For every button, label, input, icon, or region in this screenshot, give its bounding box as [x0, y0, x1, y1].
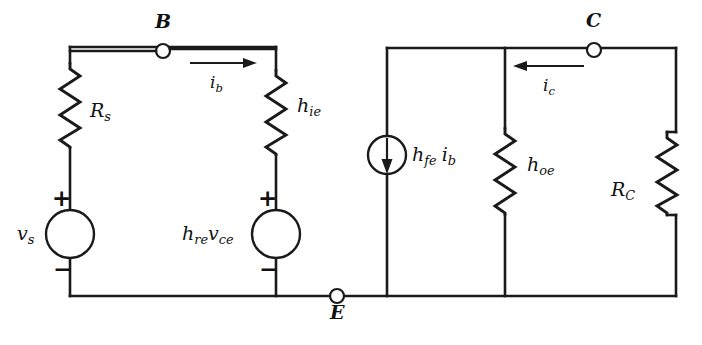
voltage-source-vs-circle: [46, 210, 94, 258]
circuit-diagram-canvas: B E C Rs hie hoe RC vs hrevce hfeib ib i…: [0, 0, 702, 345]
resistor-label-rc-sub: C: [625, 188, 635, 203]
node-label-e: E: [330, 303, 344, 322]
voltage-source-label-vce-sub: ce: [219, 232, 234, 247]
resistor-label-rc: RC: [611, 180, 635, 199]
current-arrow-label-ic-sub: c: [548, 84, 554, 98]
resistor-label-hie-sub: ie: [309, 104, 321, 119]
voltage-source-hre-vce-circle: [252, 210, 300, 258]
resistor-label-rs-base: R: [90, 99, 104, 121]
resistor-label-hoe-sub: oe: [539, 163, 554, 178]
resistor-label-hie: hie: [297, 96, 321, 115]
voltage-source-label-vce-base: v: [208, 222, 219, 244]
node-label-b: B: [155, 12, 171, 31]
terminal-node-b-circle: [156, 44, 170, 58]
resistor-label-hoe-base: h: [527, 153, 539, 175]
current-source-label-hfe-sub: fe: [424, 153, 436, 168]
polarity-minus-hre-vce: −: [259, 258, 278, 281]
current-arrow-label-ib-sub: b: [215, 81, 222, 95]
resistor-label-rs-sub: s: [104, 109, 111, 124]
voltage-source-label-vs-sub: s: [28, 232, 35, 247]
current-arrow-ic-head-icon: [513, 61, 527, 71]
voltage-source-label-vs: vs: [17, 224, 34, 243]
voltage-source-label-hre-vce: hrevce: [182, 224, 234, 243]
resistor-hoe-zigzag: [495, 128, 515, 215]
polarity-plus-vs: +: [52, 187, 71, 210]
voltage-source-label-vs-base: v: [17, 222, 28, 244]
current-source-label-ib-base: i: [442, 143, 448, 165]
resistor-label-rc-base: R: [611, 178, 625, 200]
resistor-rc-zigzag: [657, 132, 677, 215]
resistor-rs-zigzag: [60, 63, 80, 148]
polarity-plus-hre-vce: +: [258, 187, 277, 210]
resistor-hie-zigzag: [266, 70, 286, 155]
current-arrow-label-ib: ib: [210, 74, 223, 91]
polarity-minus-vs: −: [53, 258, 72, 281]
current-arrow-ib-head-icon: [243, 58, 257, 68]
resistor-label-rs: Rs: [90, 101, 111, 120]
current-source-label-ib-sub: b: [448, 153, 456, 168]
voltage-source-label-hre-sub: re: [194, 232, 208, 247]
circuit-schematic-svg: [0, 0, 702, 345]
current-source-label-hfe-base: h: [412, 143, 424, 165]
voltage-source-label-hre-base: h: [182, 222, 194, 244]
current-source-label-hfe-ib: hfeib: [412, 145, 456, 164]
node-label-c: C: [586, 11, 601, 30]
terminal-node-c-circle: [587, 43, 601, 57]
resistor-label-hoe: hoe: [527, 155, 555, 174]
current-arrow-label-ic: ic: [543, 77, 555, 94]
resistor-label-hie-base: h: [297, 94, 309, 116]
